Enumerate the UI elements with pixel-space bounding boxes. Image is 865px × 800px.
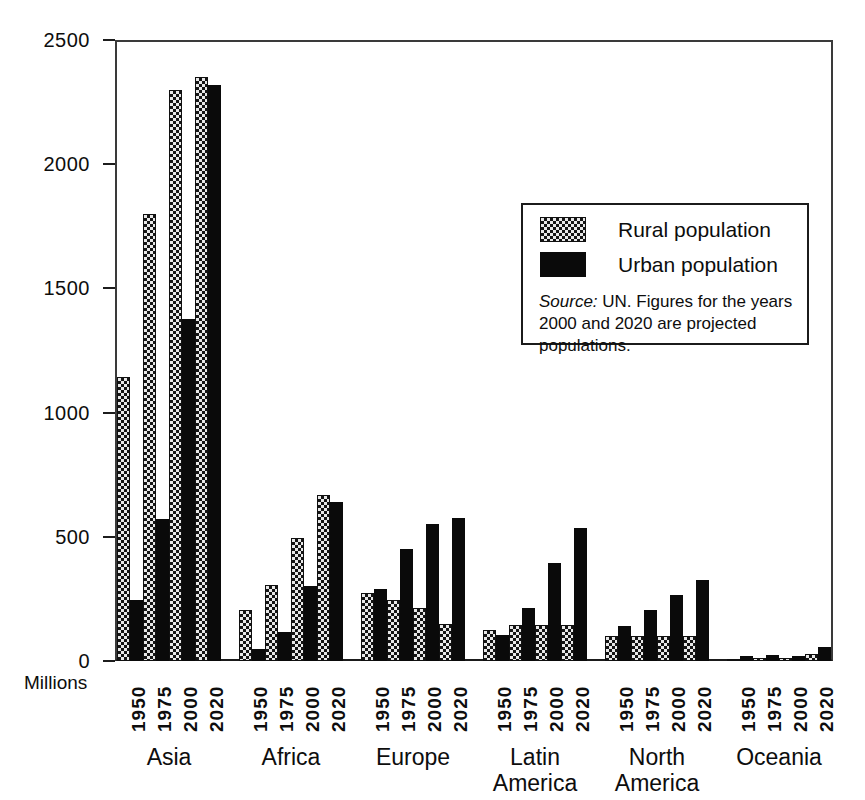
x-tick-label-year: 2000	[790, 668, 812, 732]
y-tick-mark	[103, 536, 115, 538]
bar-rural	[317, 495, 330, 661]
x-tick-label-year: 2000	[668, 668, 690, 732]
bar-rural	[195, 77, 208, 661]
legend-label-rural: Rural population	[618, 218, 771, 242]
y-tick-mark	[103, 163, 115, 165]
region-label: NorthAmerica	[615, 745, 699, 797]
x-tick-label-year: 2020	[328, 668, 350, 732]
y-tick-mark	[103, 287, 115, 289]
bar-rural	[727, 659, 740, 661]
bar-urban	[670, 595, 683, 661]
bar-urban	[818, 647, 831, 661]
y-tick-mark	[103, 39, 115, 41]
bar-rural	[779, 658, 792, 661]
bar-urban	[740, 656, 753, 661]
bar-urban	[548, 563, 561, 661]
bar-rural	[413, 608, 426, 661]
bar-urban	[130, 600, 143, 661]
bar-rural	[239, 610, 252, 661]
bar-rural	[657, 636, 670, 661]
x-tick-label-year: 2020	[572, 668, 594, 732]
x-tick-label-year: 1975	[154, 668, 176, 732]
bar-urban	[792, 656, 805, 661]
legend: Rural population Urban population Source…	[521, 203, 809, 345]
x-tick-label-year: 2020	[694, 668, 716, 732]
bar-rural	[483, 630, 496, 661]
region-label: LatinAmerica	[493, 745, 577, 797]
region-label-line1: Asia	[147, 745, 192, 771]
x-tick-label-year: 1975	[520, 668, 542, 732]
region-label-line1: Europe	[376, 745, 450, 771]
bar-urban	[252, 649, 265, 661]
y-tick-mark	[103, 412, 115, 414]
bar-urban	[644, 610, 657, 661]
region-label-line2: America	[493, 771, 577, 797]
x-tick-label-year: 2000	[180, 668, 202, 732]
bar-urban	[574, 528, 587, 661]
bar-rural	[387, 600, 400, 661]
x-tick-label-year: 2020	[450, 668, 472, 732]
bar-rural	[291, 538, 304, 661]
x-tick-label-year: 2020	[816, 668, 838, 732]
bar-urban	[522, 608, 535, 661]
bar-rural	[509, 625, 522, 661]
bar-urban	[452, 518, 465, 661]
region-label: Oceania	[736, 745, 822, 771]
bar-urban	[330, 502, 343, 661]
bar-urban	[766, 655, 779, 661]
x-tick-label-year: 1950	[494, 668, 516, 732]
legend-swatch-urban-icon	[540, 252, 586, 277]
region-label-line1: North	[615, 745, 699, 771]
x-tick-label-year: 2000	[302, 668, 324, 732]
bar-rural	[439, 624, 452, 661]
bar-urban	[182, 319, 195, 661]
x-tick-label-year: 1975	[398, 668, 420, 732]
population-bar-chart: 25002000150010005000 Millions 1950197520…	[0, 0, 865, 800]
source-prefix: Source:	[539, 292, 598, 311]
bar-urban	[426, 524, 439, 661]
bar-rural	[361, 593, 374, 661]
region-label-line1: Latin	[493, 745, 577, 771]
bar-rural	[631, 636, 644, 661]
legend-item-rural: Rural population	[540, 217, 771, 242]
region-label-line1: Africa	[262, 745, 321, 771]
legend-swatch-rural-icon	[540, 217, 586, 242]
x-tick-label-year: 2020	[206, 668, 228, 732]
bar-rural	[805, 654, 818, 661]
bar-urban	[496, 635, 509, 661]
bar-rural	[753, 658, 766, 661]
x-tick-label-year: 1950	[616, 668, 638, 732]
region-label: Europe	[376, 745, 450, 771]
x-tick-label-year: 2000	[424, 668, 446, 732]
bar-rural	[143, 214, 156, 661]
bar-urban	[374, 589, 387, 661]
bar-urban	[278, 632, 291, 661]
x-tick-label-year: 2000	[546, 668, 568, 732]
x-tick-label-year: 1950	[250, 668, 272, 732]
region-label-line2: America	[615, 771, 699, 797]
x-tick-label-year: 1975	[642, 668, 664, 732]
legend-source-note: Source: UN. Figures for the years 2000 a…	[539, 291, 797, 356]
bar-urban	[696, 580, 709, 661]
bar-rural	[535, 625, 548, 661]
legend-label-urban: Urban population	[618, 253, 778, 277]
bar-urban	[400, 549, 413, 661]
bar-urban	[618, 626, 631, 661]
y-tick-mark	[103, 660, 115, 662]
bar-rural	[605, 636, 618, 661]
bar-rural	[683, 636, 696, 661]
x-tick-label-year: 1975	[764, 668, 786, 732]
x-tick-label-year: 1950	[738, 668, 760, 732]
bar-rural	[117, 377, 130, 661]
region-label-line1: Oceania	[736, 745, 822, 771]
bar-urban	[208, 85, 221, 661]
bar-rural	[169, 90, 182, 661]
bar-urban	[304, 586, 317, 661]
y-unit-label: Millions	[24, 672, 87, 694]
bar-rural	[561, 625, 574, 661]
x-tick-label-year: 1975	[276, 668, 298, 732]
region-label: Asia	[147, 745, 192, 771]
x-tick-label-year: 1950	[372, 668, 394, 732]
bar-urban	[156, 519, 169, 661]
bar-rural	[265, 585, 278, 661]
